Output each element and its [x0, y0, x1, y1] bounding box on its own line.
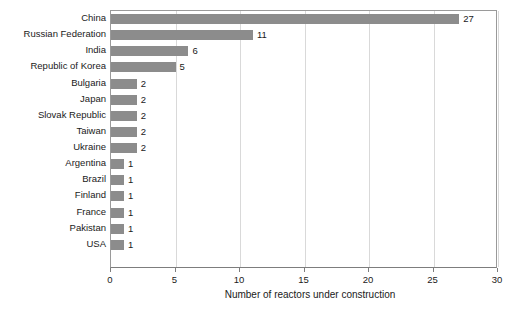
bar-row: 1: [111, 221, 496, 237]
bar-value-label: 2: [141, 125, 146, 138]
bar-value-label: 1: [128, 157, 133, 170]
bar: [111, 62, 176, 72]
bar-value-label: 2: [141, 93, 146, 106]
bar: [111, 14, 459, 24]
x-tick-label: 10: [234, 273, 245, 286]
plot-area: 27116522222111111: [110, 10, 497, 268]
category-label: Brazil: [0, 172, 106, 185]
bar: [111, 30, 253, 40]
bar-row: 27: [111, 11, 496, 27]
bar: [111, 127, 137, 137]
bar-row: 2: [111, 76, 496, 92]
category-axis-labels: ChinaRussian FederationIndiaRepublic of …: [0, 10, 106, 268]
bar-value-label: 1: [128, 173, 133, 186]
category-label: Bulgaria: [0, 76, 106, 89]
category-label: China: [0, 11, 106, 24]
x-tick-mark: [175, 268, 176, 272]
bar: [111, 79, 137, 89]
bar-value-label: 6: [192, 44, 197, 57]
x-tick-label: 15: [298, 273, 309, 286]
bar: [111, 111, 137, 121]
x-axis: 051015202530: [110, 268, 497, 290]
bar-row: 1: [111, 156, 496, 172]
bar-chart: ChinaRussian FederationIndiaRepublic of …: [0, 0, 524, 309]
x-tick-mark: [497, 268, 498, 272]
category-label: Ukraine: [0, 140, 106, 153]
bar-row: 1: [111, 205, 496, 221]
bar-value-label: 1: [128, 189, 133, 202]
bar-row: 2: [111, 140, 496, 156]
bar-value-label: 1: [128, 238, 133, 251]
x-axis-title-text: Number of reactors under construction: [129, 288, 396, 302]
x-tick-mark: [110, 268, 111, 272]
category-label: Finland: [0, 188, 106, 201]
category-label: Taiwan: [0, 124, 106, 137]
bar: [111, 159, 124, 169]
category-label: India: [0, 43, 106, 56]
bar-row: 2: [111, 124, 496, 140]
category-label: Republic of Korea: [0, 59, 106, 72]
bar: [111, 224, 124, 234]
x-tick-mark: [433, 268, 434, 272]
x-tick-mark: [368, 268, 369, 272]
bar: [111, 95, 137, 105]
bar: [111, 46, 188, 56]
bar-row: 11: [111, 27, 496, 43]
bar-row: 2: [111, 92, 496, 108]
bar-value-label: 1: [128, 222, 133, 235]
bar-row: 1: [111, 188, 496, 204]
bar-value-label: 5: [180, 60, 185, 73]
bar: [111, 240, 124, 250]
bar-row: 2: [111, 108, 496, 124]
category-label: Argentina: [0, 156, 106, 169]
x-tick-label: 5: [172, 273, 177, 286]
category-label: Pakistan: [0, 221, 106, 234]
bar-value-label: 2: [141, 77, 146, 90]
bar-row: 6: [111, 43, 496, 59]
bar: [111, 191, 124, 201]
bar-row: 5: [111, 59, 496, 75]
bar-row: 1: [111, 237, 496, 253]
bar-value-label: 2: [141, 141, 146, 154]
category-label: France: [0, 205, 106, 218]
category-label: Russian Federation: [0, 27, 106, 40]
bar-row: 1: [111, 172, 496, 188]
x-tick-mark: [239, 268, 240, 272]
x-tick-mark: [304, 268, 305, 272]
category-label: USA: [0, 237, 106, 250]
bar: [111, 175, 124, 185]
x-tick-label: 0: [107, 273, 112, 286]
x-axis-title: Number of reactors under construction: [0, 288, 524, 302]
bar-value-label: 1: [128, 206, 133, 219]
category-label: Slovak Republic: [0, 108, 106, 121]
category-label: Japan: [0, 92, 106, 105]
bar: [111, 143, 137, 153]
bar-value-label: 27: [463, 12, 474, 25]
x-tick-label: 25: [427, 273, 438, 286]
bar: [111, 208, 124, 218]
x-tick-label: 30: [492, 273, 503, 286]
bar-value-label: 11: [257, 28, 267, 41]
bar-value-label: 2: [141, 109, 146, 122]
gridline: [498, 11, 499, 267]
x-tick-label: 20: [363, 273, 374, 286]
